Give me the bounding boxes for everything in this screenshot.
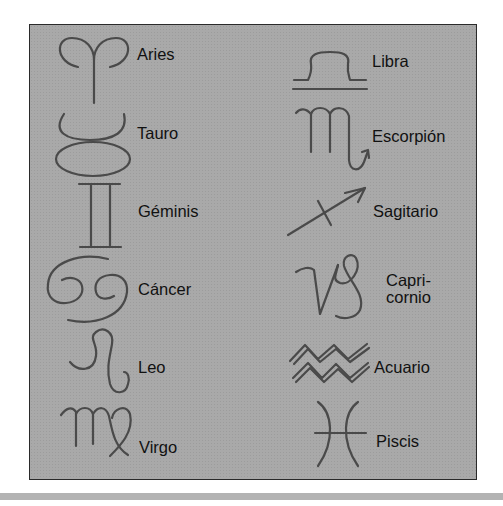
pisces-icon xyxy=(0,0,503,506)
sign-label-pisces: Piscis xyxy=(376,433,419,450)
